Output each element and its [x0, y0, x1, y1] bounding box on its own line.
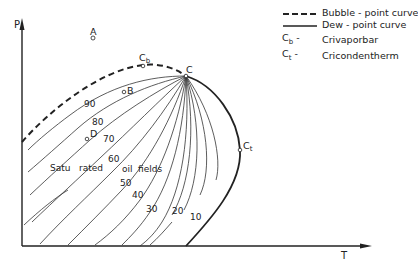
point-d-label: D: [90, 128, 97, 139]
quality-label-70: 70: [103, 134, 115, 144]
quality-line: [140, 76, 187, 246]
region-label-part1: Satu: [50, 163, 70, 173]
legend-item-ct: Ct - Cricondentherm: [282, 48, 418, 64]
legend: Bubble - point curve Dew - point curve C…: [282, 7, 418, 64]
quality-label-20: 20: [172, 206, 184, 216]
quality-line: [28, 76, 186, 172]
quality-label-30: 30: [146, 204, 158, 214]
y-axis-arrow-icon: [20, 18, 25, 30]
legend-item-bubble: Bubble - point curve: [282, 7, 418, 19]
point-d-marker: [85, 137, 89, 141]
point-cb-label: Cb: [139, 52, 151, 65]
quality-label-80: 80: [92, 117, 104, 127]
legend-label: Dew - point curve: [322, 19, 406, 31]
legend-label: Cricondentherm: [322, 50, 399, 62]
dashed-line-icon: [282, 7, 322, 19]
point-ct-marker: [238, 148, 242, 152]
legend-item-dew: Dew - point curve: [282, 19, 418, 31]
point-b-marker: [122, 90, 126, 94]
bubble-point-curve: [22, 65, 186, 142]
region-label-part3: oil: [122, 164, 133, 174]
point-b-label: B: [127, 85, 134, 96]
quality-line: [32, 76, 186, 222]
point-c-label: C: [186, 64, 193, 75]
region-label-part2: rated: [79, 163, 103, 173]
region-label: Satu rated oil fields: [50, 163, 162, 174]
legend-label: Crivaporbar: [322, 34, 378, 46]
quality-line: [24, 190, 68, 225]
quality-label-10: 10: [190, 212, 202, 222]
quality-label-90: 90: [84, 99, 96, 109]
legend-symbol: Cb -: [282, 32, 322, 48]
legend-symbol: Ct -: [282, 48, 322, 64]
point-ct-label: Ct: [243, 140, 253, 153]
quality-label-40: 40: [132, 190, 144, 200]
legend-label: Bubble - point curve: [322, 7, 418, 19]
y-axis-label: P: [14, 19, 20, 30]
region-label-part4: fields: [138, 164, 162, 174]
x-axis-label: T: [340, 250, 348, 261]
point-cb-marker: [141, 64, 145, 68]
quality-label-50: 50: [120, 178, 132, 188]
solid-line-icon: [282, 19, 322, 31]
legend-item-cb: Cb - Crivaporbar: [282, 32, 418, 48]
point-a-label: A: [90, 26, 97, 37]
x-axis-arrow-icon: [360, 244, 372, 249]
quality-lines: [24, 76, 218, 246]
quality-label-60: 60: [108, 154, 120, 164]
